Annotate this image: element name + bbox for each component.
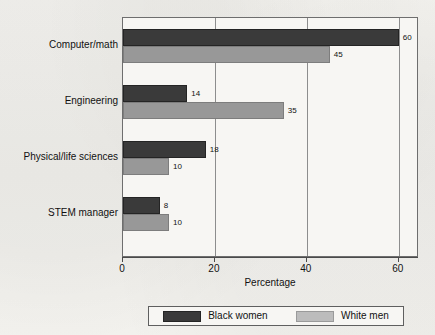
x-axis-line xyxy=(122,257,418,258)
light-swatch-icon xyxy=(296,311,334,322)
x-tick-40 xyxy=(306,257,307,262)
legend-entry-white-men: White men xyxy=(296,310,389,322)
category-label-2: Physical/life sciences xyxy=(24,151,118,163)
plot-area: 604514351810810 xyxy=(122,17,418,257)
chart-legend: Black women White men xyxy=(148,306,404,326)
bar-black-women-2 xyxy=(123,141,206,158)
category-label-3: STEM manager xyxy=(48,207,118,219)
dark-swatch-icon xyxy=(163,311,201,322)
bar-white-men-1 xyxy=(123,102,284,119)
x-tick-label: 60 xyxy=(392,263,403,275)
bar-black-women-0 xyxy=(123,29,399,46)
bar-value-label: 35 xyxy=(288,106,297,115)
bar-white-men-0 xyxy=(123,46,330,63)
x-tick-label: 20 xyxy=(208,263,219,275)
bar-value-label: 60 xyxy=(403,33,412,42)
category-label-0: Computer/math xyxy=(49,39,118,51)
bar-value-label: 45 xyxy=(334,50,343,59)
bar-value-label: 10 xyxy=(173,162,182,171)
x-tick-60 xyxy=(398,257,399,262)
gridline-60 xyxy=(399,18,400,256)
bar-black-women-1 xyxy=(123,85,187,102)
bar-white-men-3 xyxy=(123,214,169,231)
bar-value-label: 18 xyxy=(210,145,219,154)
bar-value-label: 8 xyxy=(164,201,168,210)
x-tick-0 xyxy=(122,257,123,262)
category-axis-labels: Computer/mathEngineeringPhysical/life sc… xyxy=(0,0,118,335)
x-axis-title: Percentage xyxy=(122,277,418,289)
legend-label: White men xyxy=(341,310,389,322)
legend-label: Black women xyxy=(208,310,267,322)
x-tick-label: 40 xyxy=(300,263,311,275)
legend-entry-black-women: Black women xyxy=(163,310,267,322)
bar-white-men-2 xyxy=(123,158,169,175)
bar-black-women-3 xyxy=(123,197,160,214)
bar-value-label: 14 xyxy=(191,89,200,98)
x-tick-label: 0 xyxy=(119,263,125,275)
bar-value-label: 10 xyxy=(173,218,182,227)
category-label-1: Engineering xyxy=(65,95,118,107)
x-tick-20 xyxy=(214,257,215,262)
